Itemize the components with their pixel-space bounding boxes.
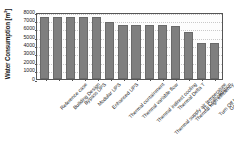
y-axis-title-text: Water Consumption [m (4, 13, 11, 79)
bar (118, 25, 127, 79)
y-tick-label: 6000 (23, 27, 35, 32)
y-axis-unit-exponent: 3 (3, 11, 8, 13)
y-tick-label: 8000 (23, 10, 35, 15)
bar (53, 17, 62, 79)
x-axis-tick-marks (37, 79, 222, 81)
bar (184, 32, 193, 79)
y-axis-tick-labels: 800070006000500040003000200010000 (14, 13, 35, 80)
bar (158, 25, 167, 79)
bar (79, 17, 88, 79)
bar (197, 43, 206, 78)
y-tick-label: 5000 (23, 35, 35, 40)
water-consumption-bar-chart: Water Consumption [m3] 80007000600050004… (0, 0, 234, 150)
plot-area (36, 13, 223, 80)
y-tick-label: 4000 (23, 43, 35, 48)
y-tick-label: 3000 (23, 52, 35, 57)
bar (92, 17, 101, 79)
y-axis-title-tail: ] (4, 9, 11, 11)
bar (131, 25, 140, 79)
y-tick-label: 7000 (23, 18, 35, 23)
bar (40, 17, 49, 79)
y-axis-title: Water Consumption [m3] (1, 8, 11, 80)
bar (210, 43, 219, 78)
y-tick-label: 2000 (23, 60, 35, 65)
bar (145, 25, 154, 79)
bar (171, 26, 180, 78)
y-tick-label: 1000 (23, 69, 35, 74)
bar (105, 22, 114, 78)
bar-series (37, 14, 222, 79)
x-axis-tick-labels: Reference caseBuilding DesignBypass UPSM… (36, 82, 223, 148)
bar (66, 17, 75, 79)
